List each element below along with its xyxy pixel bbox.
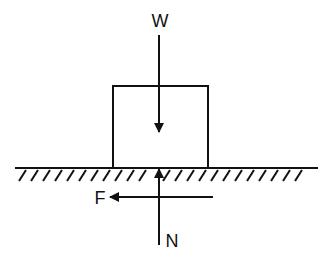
diagram-svg: W F N xyxy=(0,0,334,260)
block xyxy=(113,86,208,168)
normal-label: N xyxy=(166,231,179,251)
friction-label: F xyxy=(95,188,106,208)
ground-hatching xyxy=(19,170,302,181)
weight-label: W xyxy=(152,11,169,31)
free-body-diagram: W F N xyxy=(0,0,334,260)
